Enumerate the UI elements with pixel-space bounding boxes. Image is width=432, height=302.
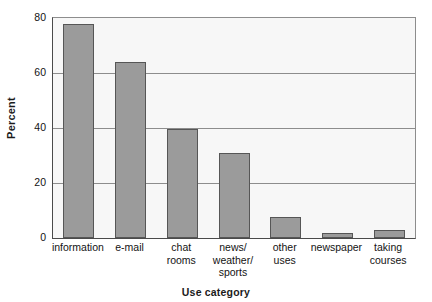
x-axis-category-labels: informatione-mailchat roomsnews/ weather…	[52, 241, 414, 287]
y-axis-tick-label: 0	[6, 231, 46, 243]
plot-area	[52, 17, 416, 239]
y-axis-tick-label: 20	[6, 176, 46, 188]
bar	[322, 233, 353, 239]
x-axis-title: Use category	[0, 286, 432, 298]
bar-chart: Percent 020406080 informatione-mailchat …	[0, 0, 432, 302]
bar	[63, 24, 94, 239]
bar-series	[53, 18, 415, 238]
bar	[270, 217, 301, 238]
x-axis-category-label: taking courses	[358, 241, 418, 266]
y-axis-title: Percent	[5, 83, 17, 153]
y-axis-tick-label: 80	[6, 11, 46, 23]
bar	[167, 129, 198, 238]
y-axis-tick-label: 60	[6, 66, 46, 78]
bar	[219, 153, 250, 238]
bar	[374, 230, 405, 238]
bar	[115, 62, 146, 238]
